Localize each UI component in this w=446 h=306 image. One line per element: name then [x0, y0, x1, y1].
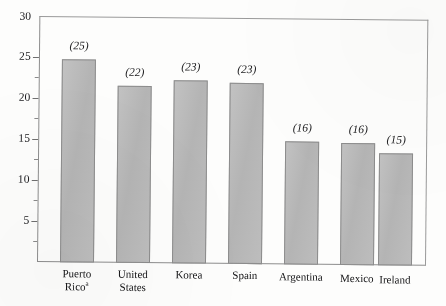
category-label-line1: Ireland [357, 273, 433, 287]
bar-korea[interactable] [172, 80, 208, 263]
category-label-line2: States [95, 281, 171, 295]
y-tick-label-30: 30 [5, 10, 31, 22]
chart-page: 30 25 20 15 10 5 (25) (22) [0, 0, 446, 306]
bar-value-spain: (23) [217, 63, 277, 76]
y-tick-label-15: 15 [4, 132, 30, 144]
y-tick-label-5: 5 [3, 214, 29, 226]
footnote-marker-a: a [86, 280, 89, 288]
plot-area: (25) (22) (23) (23) (16) (16) (15) [38, 17, 427, 266]
bar-united-states[interactable] [116, 86, 152, 263]
bar-value-united-states: (22) [105, 66, 165, 79]
bar-ireland[interactable] [378, 153, 413, 265]
bar-value-puerto-rico: (25) [49, 39, 109, 52]
bar-spain[interactable] [228, 83, 264, 264]
bar-puerto-rico[interactable] [60, 59, 96, 262]
y-tick-label-25: 25 [5, 50, 31, 62]
bar-value-korea: (23) [161, 60, 221, 73]
y-axis: 30 25 20 15 10 5 [0, 0, 32, 306]
y-tick-label-20: 20 [5, 91, 31, 103]
y-tick-label-10: 10 [4, 173, 30, 185]
bar-value-ireland: (15) [366, 133, 426, 146]
bar-argentina[interactable] [284, 141, 319, 264]
scanned-figure: 30 25 20 15 10 5 (25) (22) [0, 0, 446, 306]
bar-value-argentina: (16) [272, 121, 332, 134]
bar-mexico[interactable] [340, 143, 375, 265]
category-label-ireland: Ireland [357, 273, 433, 287]
